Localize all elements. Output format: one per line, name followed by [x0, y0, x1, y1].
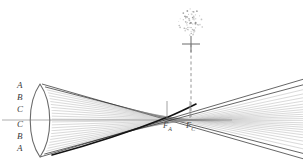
blur-dot	[184, 27, 185, 28]
blur-dot	[186, 24, 187, 25]
blur-dot	[193, 32, 194, 33]
focus-label-fa: FA	[163, 121, 172, 132]
blur-dot	[178, 25, 180, 27]
blur-spot	[178, 8, 203, 36]
zone-label-c-top: C	[17, 105, 23, 114]
blur-dot	[187, 27, 188, 28]
blur-dot	[190, 27, 191, 28]
spherical-aberration-diagram: A B C C B A FA FC	[0, 0, 304, 165]
zone-label-b-top: B	[17, 93, 23, 102]
blur-dot	[188, 30, 189, 31]
blur-dot	[189, 23, 190, 24]
zone-label-c-bottom: C	[17, 120, 23, 129]
blur-dot	[179, 27, 181, 29]
focus-label-fa-subscript: A	[168, 126, 172, 132]
blur-dot	[195, 18, 197, 20]
zone-label-a-top: A	[17, 81, 23, 90]
blur-dot	[195, 27, 196, 28]
blur-dot	[185, 21, 187, 23]
refracted-ray	[40, 79, 303, 157]
diagram-canvas	[0, 0, 304, 165]
blur-dot	[199, 15, 200, 16]
blur-dot	[185, 16, 186, 17]
blur-dot	[195, 14, 196, 15]
blur-dot	[192, 11, 193, 12]
blur-dot	[193, 30, 195, 32]
focus-label-fc-subscript: C	[191, 126, 195, 132]
blur-dot	[183, 19, 184, 20]
blur-dot	[180, 18, 181, 19]
zone-label-b-bottom: B	[17, 132, 23, 141]
blur-dot	[192, 29, 193, 30]
blur-dot	[178, 21, 179, 22]
blur-dot	[185, 30, 186, 31]
blur-dot	[196, 10, 198, 12]
blur-dot	[182, 12, 184, 14]
blur-dot	[191, 13, 193, 15]
zone-label-a-bottom: A	[17, 144, 23, 153]
blur-dot	[185, 28, 186, 29]
blur-dot	[197, 24, 199, 26]
blur-dot	[199, 24, 201, 26]
blur-dot	[195, 23, 197, 25]
blur-dot	[190, 31, 191, 32]
blur-dot	[193, 16, 195, 18]
blur-dot	[189, 34, 191, 36]
blur-dot	[188, 27, 189, 28]
blur-dot	[201, 19, 203, 21]
ray-bundle	[10, 79, 303, 158]
blur-dot	[189, 19, 191, 21]
lens-outline	[30, 84, 50, 157]
blur-dot	[202, 26, 203, 27]
focus-label-fc: FC	[186, 121, 195, 132]
blur-dot	[185, 17, 186, 18]
blur-dot	[193, 17, 195, 19]
blur-dot	[193, 19, 195, 21]
blur-dot	[190, 8, 191, 9]
blur-dot	[193, 33, 194, 34]
blur-dot	[186, 10, 188, 12]
blur-dot	[192, 23, 193, 24]
blur-dot	[188, 18, 190, 20]
blur-dot	[191, 33, 192, 34]
blur-dot	[193, 11, 194, 12]
blur-dot	[186, 23, 187, 24]
blur-dot	[192, 19, 193, 20]
blur-dot	[188, 14, 189, 15]
